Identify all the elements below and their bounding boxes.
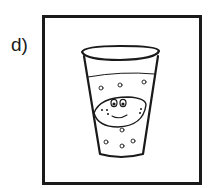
lemon-smile — [112, 115, 127, 118]
glass-rim — [82, 46, 159, 60]
bubbles — [99, 80, 146, 148]
water-line — [88, 73, 155, 77]
lemon-eyes-icon — [111, 99, 126, 106]
lemon-dots — [101, 108, 142, 115]
glass-illustration — [0, 0, 213, 188]
